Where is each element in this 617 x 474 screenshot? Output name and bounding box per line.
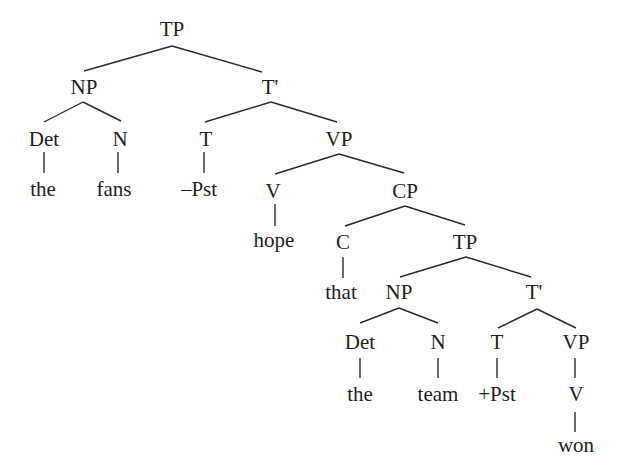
edge-np1-det1 bbox=[44, 102, 83, 122]
edge-tbar1-vp1 bbox=[271, 102, 337, 122]
edge-tp1-tbar1 bbox=[172, 46, 262, 72]
edge-tp1-np1 bbox=[84, 46, 172, 71]
tree-node-fans: fans bbox=[97, 179, 132, 200]
edge-tbar1-t1 bbox=[205, 102, 271, 122]
edge-tbar2-vp2 bbox=[537, 309, 576, 328]
edge-np2-n2 bbox=[399, 308, 438, 323]
edge-tbar2-t2 bbox=[498, 309, 537, 328]
tree-node-det2: Det bbox=[345, 332, 375, 353]
tree-node-n1: N bbox=[112, 129, 127, 150]
syntax-tree-diagram: TPNPT'DetNTVPthefans–PstVCPhopeCTPthatNP… bbox=[0, 0, 617, 474]
tree-node-tbar1: T' bbox=[262, 77, 279, 98]
tree-node-t2: T bbox=[491, 332, 504, 353]
tree-node-tp1: TP bbox=[160, 19, 185, 40]
edge-vp1-cp bbox=[339, 154, 404, 173]
tree-node-c: C bbox=[336, 232, 350, 253]
edge-np1-n1 bbox=[83, 102, 121, 121]
tree-node-vp1: VP bbox=[326, 129, 353, 150]
tree-node-tp2: TP bbox=[453, 232, 478, 253]
tree-node-v2: V bbox=[568, 384, 583, 405]
edge-cp-c bbox=[345, 206, 405, 226]
tree-node-t1: T bbox=[200, 129, 213, 150]
tree-node-cp: CP bbox=[392, 181, 418, 202]
edge-tp2-np2 bbox=[400, 257, 466, 277]
tree-node-n2: N bbox=[430, 332, 445, 353]
tree-node-npst: –Pst bbox=[181, 179, 217, 200]
tree-node-np1: NP bbox=[71, 77, 98, 98]
tree-node-np2: NP bbox=[386, 282, 413, 303]
tree-node-the2: the bbox=[347, 384, 373, 405]
tree-node-v1: V bbox=[265, 181, 280, 202]
tree-node-ppst: +Pst bbox=[478, 384, 516, 405]
tree-node-det1: Det bbox=[29, 129, 59, 150]
edge-tp2-tbar2 bbox=[466, 257, 531, 277]
tree-node-tbar2: T' bbox=[526, 282, 543, 303]
tree-node-team: team bbox=[418, 384, 459, 405]
tree-node-hope: hope bbox=[254, 230, 295, 251]
tree-node-won: won bbox=[558, 435, 594, 456]
tree-node-the1: the bbox=[30, 179, 56, 200]
tree-node-that: that bbox=[325, 282, 357, 303]
edge-np2-det2 bbox=[360, 308, 399, 323]
edge-vp1-v1 bbox=[275, 154, 339, 174]
edge-cp-tp2 bbox=[405, 206, 465, 225]
tree-edges bbox=[0, 0, 617, 474]
tree-node-vp2: VP bbox=[563, 332, 590, 353]
